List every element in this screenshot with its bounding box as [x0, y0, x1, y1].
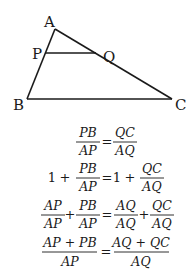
fraction-denominator: AP	[43, 216, 62, 231]
fraction-denominator: AQ	[141, 179, 161, 194]
fraction-numerator: PB	[78, 198, 97, 213]
fraction-numerator: PB	[78, 161, 97, 176]
equals-sign: =	[102, 134, 113, 149]
fraction-denominator: AQ	[114, 143, 134, 158]
fraction-denominator: AP	[60, 254, 79, 269]
equation-row-4: AP + PB AP = AQ + QC AQ	[42, 235, 170, 269]
fraction-denominator: AQ	[115, 216, 135, 231]
fraction-numerator: QC	[142, 161, 162, 176]
plus-sign: +	[60, 170, 71, 185]
constant-one: 1	[48, 170, 56, 185]
triangle-proof-figure: A P Q B C PB AP = QC AQ 1 + PB AP = 1 + …	[0, 0, 190, 280]
equals-sign: =	[102, 207, 113, 222]
segment-ab	[27, 29, 55, 99]
fraction-denominator: AP	[78, 216, 97, 231]
triangle-abc	[27, 29, 172, 99]
label-p: P	[32, 45, 42, 63]
fraction-numerator: PB	[78, 125, 97, 140]
equation-row-1: PB AP = QC AQ	[76, 125, 137, 158]
fraction-denominator: AP	[78, 143, 97, 158]
label-a: A	[43, 13, 55, 31]
plus-sign: +	[139, 207, 150, 222]
plus-sign: +	[65, 207, 76, 222]
constant-one: 1	[113, 170, 121, 185]
fraction-denominator: AQ	[130, 254, 150, 269]
fraction-numerator: AP	[43, 198, 62, 213]
fraction-numerator: AQ	[115, 198, 135, 213]
equals-sign: =	[101, 244, 112, 259]
equation-row-2: 1 + PB AP = 1 + QC AQ	[48, 161, 164, 194]
fraction-denominator: AP	[78, 179, 97, 194]
equals-sign: =	[102, 170, 113, 185]
fraction-numerator: AP + PB	[42, 235, 96, 250]
fraction-numerator: QC	[115, 125, 135, 140]
label-b: B	[13, 96, 24, 114]
plus-sign: +	[125, 170, 136, 185]
fraction-numerator: QC	[152, 198, 172, 213]
equation-row-3: AP AP + PB AP = AQ AQ + QC AQ	[41, 198, 174, 231]
label-c: C	[175, 96, 186, 114]
fraction-denominator: AQ	[151, 216, 171, 231]
label-q: Q	[103, 48, 115, 66]
fraction-numerator: AQ + QC	[111, 235, 170, 250]
